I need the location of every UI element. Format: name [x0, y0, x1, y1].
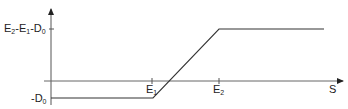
x-label-e2: E2: [213, 84, 224, 96]
y-label-bottom: -D0: [31, 93, 47, 105]
y-label-top: E2-E1-D0: [4, 23, 46, 35]
x-label-e1: E1: [146, 84, 157, 96]
diagram-canvas: [0, 0, 348, 109]
energy-curve: [51, 29, 324, 98]
x-axis-label: S: [329, 84, 336, 95]
